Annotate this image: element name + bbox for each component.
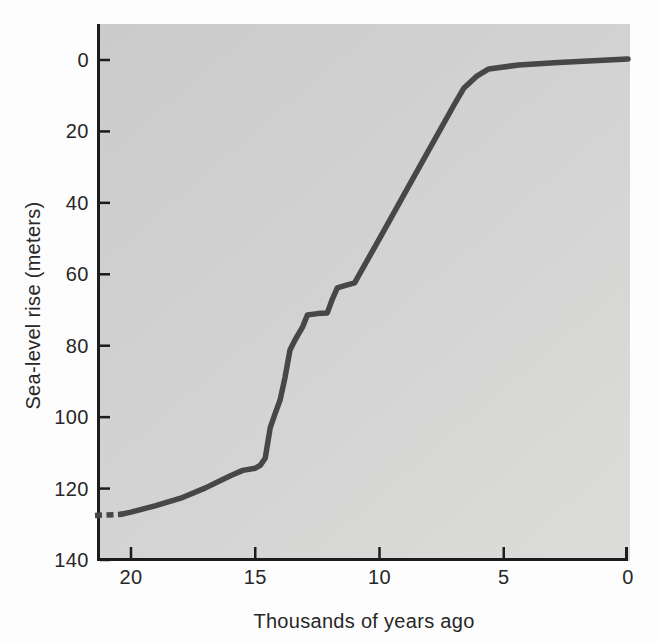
y-tick-label-0: 0 <box>37 49 89 71</box>
y-tick-label-80: 80 <box>37 335 89 357</box>
y-axis-title: Sea-level rise (meters) <box>22 176 45 436</box>
x-tick-label-15: 15 <box>225 566 285 588</box>
y-tick-label-120: 120 <box>37 478 89 500</box>
y-tick-label-40: 40 <box>37 192 89 214</box>
y-tick-label-60: 60 <box>37 263 89 285</box>
x-tick-label-20: 20 <box>101 566 161 588</box>
x-tick-label-10: 10 <box>350 566 410 588</box>
chart-plot-area <box>0 0 658 642</box>
x-tick-label-0: 0 <box>598 566 658 588</box>
y-tick-label-20: 20 <box>37 120 89 142</box>
y-tick-label-100: 100 <box>37 406 89 428</box>
y-tick-label-140: 140 <box>37 549 89 571</box>
sea-level-rise-chart: 02040608010012014020151050 Thousands of … <box>0 0 658 642</box>
plot-background <box>97 24 630 561</box>
sea-level-curve-dashed-start <box>95 514 122 515</box>
x-tick-label-5: 5 <box>474 566 534 588</box>
x-axis-title: Thousands of years ago <box>149 610 579 633</box>
